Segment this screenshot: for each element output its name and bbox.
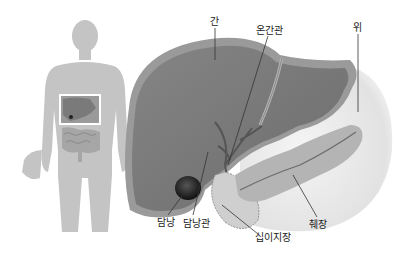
label-common-hepatic-duct: 온간관: [256, 26, 283, 36]
label-pancreas: 췌장: [309, 220, 327, 230]
label-cystic-duct: 담낭관: [183, 219, 210, 229]
human-silhouette: [22, 20, 128, 232]
label-duodenum: 십이지장: [255, 233, 291, 243]
label-gallbladder: 담낭: [157, 218, 175, 228]
label-stomach: 위: [353, 23, 362, 33]
label-liver: 간: [210, 17, 219, 27]
